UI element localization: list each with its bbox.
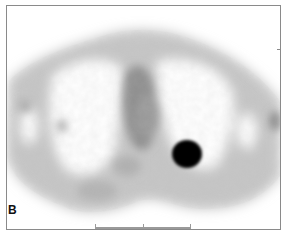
image-frame: [6, 5, 281, 230]
pet-scan-image: [7, 6, 280, 229]
scale-bar-tick: [143, 224, 144, 228]
hypermetabolic-lesion: [172, 140, 202, 168]
scale-bar-tick: [95, 224, 96, 228]
frame-tick-mark: [277, 49, 281, 50]
panel-label: B: [8, 204, 17, 216]
scale-bar-tick: [190, 224, 191, 228]
